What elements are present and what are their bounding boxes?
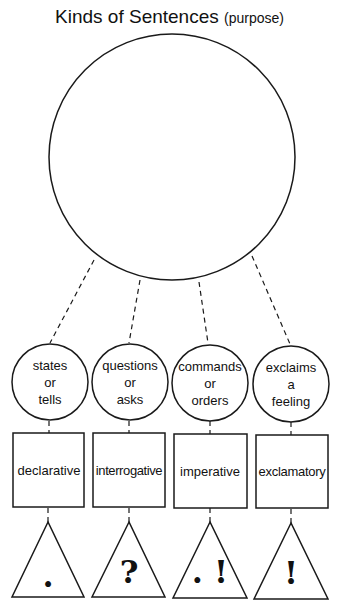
kind-name-imperative: imperative [174, 463, 246, 480]
kind-name-interrogative: interrogative [93, 462, 165, 479]
purpose-label-interrogative: questions or asks [92, 357, 168, 408]
punctuation-period-or-exclamation: . ! [174, 553, 246, 591]
kind-name-declarative: declarative [13, 462, 85, 479]
purpose-label-imperative: commands or orders [172, 358, 248, 409]
punctuation-exclamation-mark: ! [255, 554, 327, 592]
graphic-organizer [0, 0, 339, 606]
purpose-label-exclamatory: exclaims a feeling [253, 359, 329, 410]
central-circle[interactable] [49, 34, 295, 280]
kind-name-exclamatory: exclamatory [256, 463, 328, 480]
purpose-label-declarative: states or tells [12, 357, 88, 408]
punctuation-question-mark: ? [93, 553, 165, 591]
punctuation-period: . [12, 557, 84, 595]
